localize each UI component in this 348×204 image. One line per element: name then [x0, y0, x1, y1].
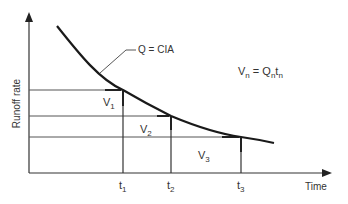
x-axis-arrow-icon [322, 169, 332, 177]
curve-label-leader [100, 50, 136, 73]
volume-label-1: V1 [103, 97, 115, 108]
y-axis-label: Runoff rate [11, 74, 22, 134]
time-label-3: t3 [237, 180, 245, 191]
time-label-2: t2 [167, 180, 175, 191]
volume-label-2: V2 [140, 124, 152, 135]
x-axis-label: Time [305, 182, 327, 192]
volume-formula: Vn = Qntn [238, 66, 283, 77]
volume-label-3: V3 [198, 150, 210, 161]
runoff-diagram [0, 0, 348, 204]
time-label-1: t1 [119, 180, 127, 191]
curve-label: Q = CIA [138, 45, 174, 55]
y-axis-arrow-icon [25, 12, 33, 22]
